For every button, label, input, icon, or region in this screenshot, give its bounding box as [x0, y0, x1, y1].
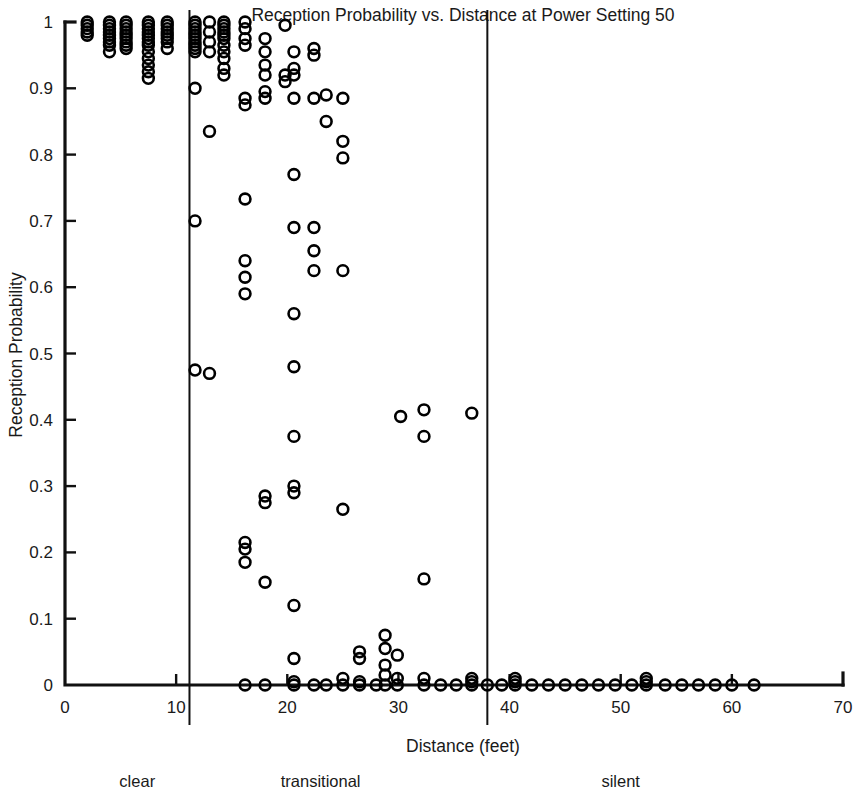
y-tick-label: 0.4: [29, 411, 53, 430]
region-label-silent: silent: [601, 772, 640, 790]
data-point: [260, 46, 271, 57]
data-point: [309, 222, 320, 233]
x-tick-label: 40: [500, 698, 519, 717]
data-point: [240, 557, 251, 568]
data-point: [419, 574, 430, 585]
chart-title: Reception Probability vs. Distance at Po…: [251, 5, 674, 25]
data-point: [337, 136, 348, 147]
data-point: [289, 46, 300, 57]
x-tick-label: 70: [834, 698, 853, 717]
region-labels: cleartransitionalsilent: [119, 772, 640, 790]
y-tick-label: 0.6: [29, 278, 53, 297]
data-point: [337, 153, 348, 164]
data-point: [395, 411, 406, 422]
data-point: [380, 643, 391, 654]
data-point: [240, 288, 251, 299]
data-point: [321, 90, 332, 101]
y-tick-label: 0: [44, 676, 53, 695]
data-point: [190, 83, 201, 94]
data-point: [289, 93, 300, 104]
data-point: [392, 650, 403, 661]
data-point: [204, 368, 215, 379]
data-point: [289, 361, 300, 372]
x-tick-label: 20: [278, 698, 297, 717]
y-axis-label: Reception Probability: [6, 272, 26, 438]
data-point: [204, 126, 215, 137]
data-point: [380, 630, 391, 641]
data-point: [337, 504, 348, 515]
x-axis-label: Distance (feet): [406, 736, 520, 756]
data-point: [419, 404, 430, 415]
data-point: [289, 308, 300, 319]
y-tick-label: 0.2: [29, 543, 53, 562]
data-point: [260, 577, 271, 588]
data-point: [289, 169, 300, 180]
data-point: [309, 265, 320, 276]
region-divider-lines: [189, 10, 487, 725]
data-point: [337, 93, 348, 104]
y-tick-label: 0.9: [29, 79, 53, 98]
data-point: [419, 431, 430, 442]
y-tick-label: 0.5: [29, 345, 53, 364]
plot-axes: [65, 22, 843, 685]
data-point: [289, 600, 300, 611]
x-tick-label: 50: [611, 698, 630, 717]
data-point: [309, 245, 320, 256]
data-point: [240, 194, 251, 205]
x-tick-label: 10: [167, 698, 186, 717]
y-axis-ticks: [65, 88, 76, 618]
y-tick-label: 0.8: [29, 146, 53, 165]
y-tick-label: 0.7: [29, 212, 53, 231]
y-tick-label: 0.3: [29, 477, 53, 496]
y-axis-tick-labels: 00.10.20.30.40.50.60.70.80.91: [29, 13, 53, 695]
x-tick-label: 30: [389, 698, 408, 717]
y-tick-label: 0.1: [29, 610, 53, 629]
data-point: [289, 653, 300, 664]
data-point: [466, 408, 477, 419]
scatter-plot-svg: Reception Probability vs. Distance at Po…: [0, 0, 863, 797]
x-axis-tick-labels: 010203040506070: [60, 698, 852, 717]
data-point-group: [82, 17, 760, 691]
data-point: [240, 255, 251, 266]
data-point: [321, 116, 332, 127]
x-tick-label: 60: [722, 698, 741, 717]
data-point: [337, 265, 348, 276]
data-point: [190, 216, 201, 227]
y-tick-label: 1: [44, 13, 53, 32]
region-label-clear: clear: [119, 772, 155, 790]
data-point: [260, 33, 271, 44]
data-point: [240, 272, 251, 283]
data-point: [190, 365, 201, 376]
data-point: [289, 431, 300, 442]
x-tick-label: 0: [60, 698, 69, 717]
chart-figure: Reception Probability vs. Distance at Po…: [0, 0, 863, 797]
region-label-transitional: transitional: [281, 772, 361, 790]
data-point: [289, 222, 300, 233]
data-point: [309, 93, 320, 104]
